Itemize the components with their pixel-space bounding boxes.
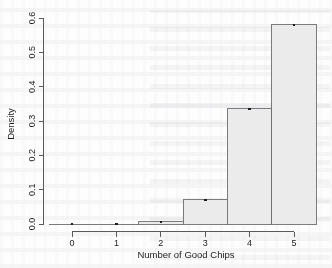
y-axis-tick-label: 0.2	[27, 149, 37, 162]
y-axis: 0.00.10.20.30.40.50.6	[27, 12, 44, 231]
y-axis-title: Density	[5, 108, 16, 140]
x-axis-tick-label: 4	[247, 238, 252, 248]
y-axis-tick-label: 0.0	[27, 218, 37, 231]
point-marker	[204, 199, 207, 202]
point-marker	[160, 221, 163, 224]
y-axis-tick-label: 0.5	[27, 46, 37, 59]
histogram-bars	[50, 25, 316, 225]
histogram-bar	[272, 25, 316, 224]
y-axis-tick-label: 0.3	[27, 115, 37, 128]
density-histogram-chart: 0.00.10.20.30.40.50.6 012345 Number of G…	[0, 0, 332, 268]
x-axis-tick-label: 5	[291, 238, 296, 248]
y-axis-tick-label: 0.4	[27, 80, 37, 93]
y-axis-tick-label: 0.6	[27, 12, 37, 25]
x-axis-tick-label: 3	[203, 238, 208, 248]
point-marker	[293, 24, 296, 27]
point-marker	[71, 223, 74, 226]
x-axis: 012345	[69, 232, 296, 249]
point-marker	[115, 223, 118, 226]
x-axis-title: Number of Good Chips	[137, 249, 234, 260]
x-axis-tick-label: 2	[158, 238, 163, 248]
y-axis-tick-label: 0.1	[27, 183, 37, 196]
histogram-bar	[227, 109, 271, 224]
x-axis-tick-label: 0	[69, 238, 74, 248]
point-marker	[248, 108, 251, 111]
x-axis-tick-label: 1	[114, 238, 119, 248]
histogram-bar	[183, 200, 227, 224]
